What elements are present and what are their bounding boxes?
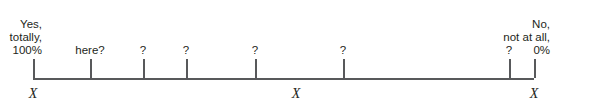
right-anchor-label: No, not at all, 0%	[424, 18, 550, 57]
right-anchor-line-3: 0%	[424, 44, 550, 57]
x-mark: X	[29, 87, 38, 101]
x-mark: X	[292, 87, 301, 101]
tick-label-question: ?	[183, 44, 189, 57]
right-anchor-line-2: not at all,	[424, 31, 550, 44]
tick-label-question: ?	[340, 44, 346, 57]
tick-label-question: ?	[140, 44, 146, 57]
axis-baseline	[33, 78, 534, 80]
left-anchor-line-2: totally,	[0, 31, 42, 44]
axis-tick	[343, 59, 345, 78]
axis-tick	[143, 59, 145, 78]
tick-label-question: ?	[252, 44, 258, 57]
left-anchor-line-1: Yes,	[0, 18, 42, 31]
x-mark: X	[530, 87, 539, 101]
left-anchor-line-3: 100%	[0, 44, 42, 57]
tick-label-here: here?	[75, 44, 104, 57]
left-anchor-label: Yes, totally, 100%	[0, 18, 42, 57]
axis-tick	[509, 59, 511, 78]
axis-tick	[534, 59, 536, 78]
axis-tick	[186, 59, 188, 78]
axis-tick	[33, 59, 35, 78]
scale-line-figure: here?????? Yes, totally, 100% No, not at…	[0, 0, 596, 101]
axis-tick	[90, 59, 92, 78]
axis-tick	[255, 59, 257, 78]
right-anchor-line-1: No,	[424, 18, 550, 31]
